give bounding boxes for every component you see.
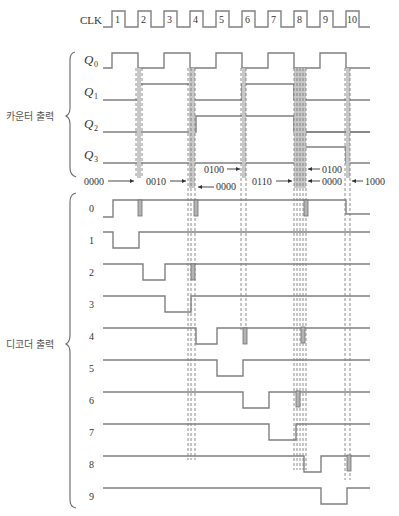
- clk-pulse-9: 9: [323, 14, 328, 25]
- state-0000-b: 0000: [216, 181, 236, 192]
- decoder-1-waveform: [103, 232, 370, 248]
- q3-waveform: [103, 147, 370, 163]
- decoder-labels: 0 1 2 3 4 5 6 7 8 9: [89, 203, 94, 502]
- clk-pulse-7: 7: [271, 14, 276, 25]
- state-1000: 1000: [365, 176, 385, 187]
- clk-pulse-5: 5: [219, 14, 224, 25]
- glitch-0-a: [138, 200, 142, 216]
- q2-label: Q: [84, 116, 94, 131]
- decoder-3-waveform: [103, 296, 370, 312]
- decoder-label-0: 0: [89, 203, 94, 214]
- clk-pulse-3: 3: [167, 14, 172, 25]
- clk-pulse-4: 4: [193, 14, 198, 25]
- decoder-group-label: 디코더 출력: [6, 339, 54, 350]
- glitch-0-b: [194, 200, 198, 216]
- q3-label: Q: [84, 147, 94, 162]
- decoder-label-9: 9: [89, 491, 94, 502]
- q1-sub: 1: [94, 92, 98, 101]
- clk-pulse-8: 8: [297, 14, 302, 25]
- q2-waveform: [103, 116, 370, 132]
- state-0100-a: 0100: [204, 164, 224, 175]
- decoder-4-waveform: [103, 328, 370, 344]
- clk-label: CLK: [80, 14, 102, 26]
- decoder-label-1: 1: [89, 235, 94, 246]
- clk-pulse-6: 6: [245, 14, 250, 25]
- glitch-2: [191, 264, 195, 280]
- counter-group-label: 카운터 출력: [6, 111, 54, 122]
- clk-pulse-2: 2: [141, 14, 146, 25]
- q1-waveform: [103, 84, 370, 100]
- decoder-label-8: 8: [89, 459, 94, 470]
- decoder-brace: [66, 193, 76, 508]
- q0-waveform: [103, 53, 370, 68]
- state-0100-b: 0100: [322, 164, 342, 175]
- glitch-4-a: [243, 328, 247, 344]
- decoder-2-waveform: [103, 264, 370, 280]
- decoder-7-waveform: [103, 424, 370, 440]
- glitch-4-b: [301, 327, 305, 343]
- q1-label: Q: [84, 84, 94, 99]
- timing-diagram: CLK 1 2 3 4 5 6 7 8 9 10 카운터 출력 Q 0 Q 1 …: [0, 0, 399, 516]
- decoder-label-3: 3: [89, 299, 94, 310]
- q3-sub: 3: [94, 155, 98, 164]
- q0-label: Q: [84, 52, 94, 67]
- decoder-8-waveform: [103, 456, 370, 472]
- q0-sub: 0: [94, 60, 98, 69]
- state-0000-a: 0000: [84, 176, 104, 187]
- state-annotations: 0000 0010 0000 0100 0110 0100 0000 1000: [84, 164, 385, 192]
- glitch-8: [347, 455, 351, 471]
- state-0000-c: 0000: [322, 176, 342, 187]
- clk-pulse-1: 1: [115, 14, 120, 25]
- glitch-0-c: [304, 200, 308, 216]
- decoder-0-waveform: [103, 200, 370, 217]
- decoder-label-2: 2: [89, 267, 94, 278]
- propagation-delay-columns: [136, 68, 350, 480]
- q2-sub: 2: [94, 124, 98, 133]
- clk-pulse-10: 10: [347, 14, 357, 25]
- counter-brace: [66, 52, 76, 177]
- decoder-label-6: 6: [89, 395, 94, 406]
- decoder-6-waveform: [103, 392, 370, 408]
- decoder-label-5: 5: [89, 363, 94, 374]
- glitch-6: [296, 391, 300, 407]
- decoder-label-7: 7: [89, 427, 94, 438]
- state-0010: 0010: [146, 176, 166, 187]
- decoder-label-4: 4: [89, 331, 94, 342]
- state-0110: 0110: [252, 176, 272, 187]
- decoder-5-waveform: [103, 360, 370, 376]
- decoder-9-waveform: [103, 488, 370, 504]
